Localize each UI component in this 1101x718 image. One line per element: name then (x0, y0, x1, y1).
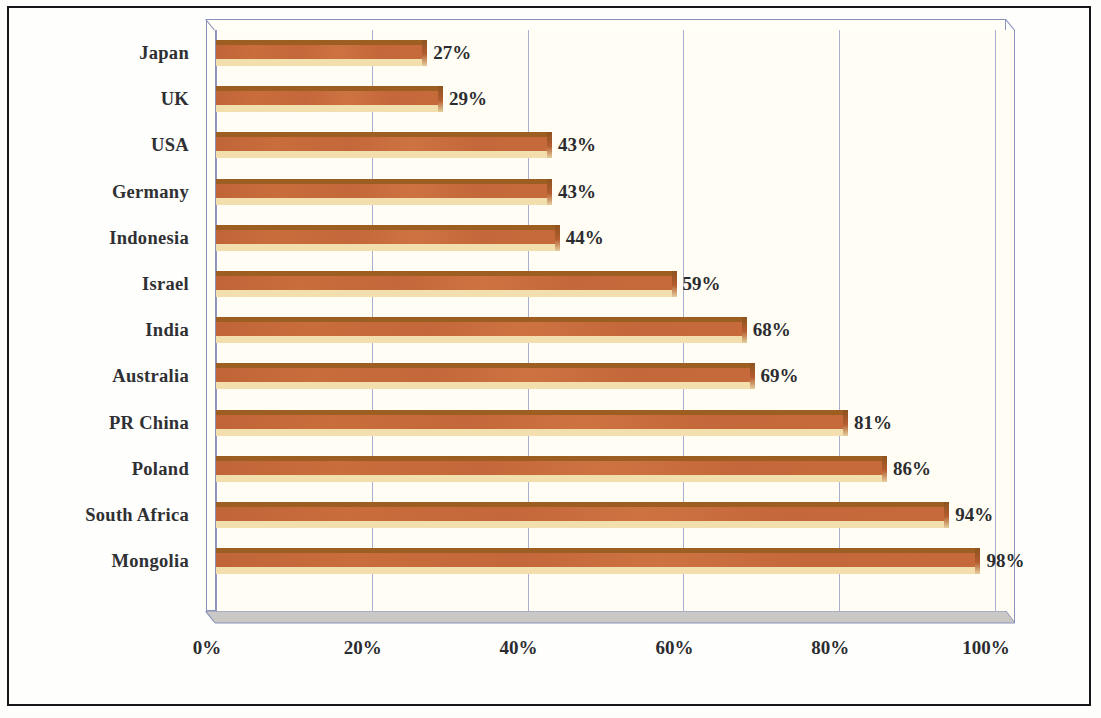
x-tick-label: 40% (474, 637, 564, 659)
category-label: South Africa (9, 492, 205, 538)
category-label: Israel (9, 261, 205, 307)
x-tick-label: 0% (162, 637, 252, 659)
bar-value-label: 86% (893, 456, 931, 482)
bar-end-cap (422, 40, 427, 66)
category-label: Germany (9, 169, 205, 215)
bar-bottom-face (216, 290, 676, 297)
bar-front-face (216, 368, 754, 382)
bar-front-face (216, 184, 551, 198)
bar-row: Japan27% (9, 30, 1093, 76)
bar-bottom-face (216, 198, 551, 205)
bar-value-label: 59% (683, 271, 721, 297)
bar-value-label: 29% (449, 86, 487, 112)
bar[interactable] (216, 132, 551, 158)
bar-row: South Africa94% (9, 492, 1093, 538)
bar-front-face (216, 553, 979, 567)
bar-row: Poland86% (9, 446, 1093, 492)
bar-row: Australia69% (9, 353, 1093, 399)
bar-front-face (216, 415, 847, 429)
bar-end-cap (975, 548, 980, 574)
x-tick-label: 60% (629, 637, 719, 659)
bar-front-face (216, 276, 676, 290)
x-tick-label: 80% (785, 637, 875, 659)
bar-row: UK29% (9, 76, 1093, 122)
x-tick-label: 100% (941, 637, 1031, 659)
bar-end-cap (843, 410, 848, 436)
bar[interactable] (216, 317, 746, 343)
bar[interactable] (216, 502, 948, 528)
bar-bottom-face (216, 567, 979, 574)
bar-end-cap (438, 86, 443, 112)
bar-chart: Japan27%UK29%USA43%Germany43%Indonesia44… (9, 8, 1093, 708)
bar[interactable] (216, 548, 979, 574)
bar-bottom-face (216, 59, 426, 66)
bar[interactable] (216, 363, 754, 389)
bar-row: Indonesia44% (9, 215, 1093, 261)
bar-row: PR China81% (9, 400, 1093, 446)
bar-end-cap (547, 179, 552, 205)
bar-value-label: 43% (558, 132, 596, 158)
bar-value-label: 27% (433, 40, 471, 66)
bar-value-label: 69% (761, 363, 799, 389)
bar-row: Israel59% (9, 261, 1093, 307)
bar[interactable] (216, 225, 559, 251)
bar-front-face (216, 45, 426, 59)
bar[interactable] (216, 456, 886, 482)
category-label: Indonesia (9, 215, 205, 261)
bar-end-cap (750, 363, 755, 389)
category-label: Poland (9, 446, 205, 492)
chart-bars-group: Japan27%UK29%USA43%Germany43%Indonesia44… (9, 8, 1093, 708)
bar-bottom-face (216, 429, 847, 436)
bar-front-face (216, 322, 746, 336)
bar-value-label: 68% (753, 317, 791, 343)
bar[interactable] (216, 86, 442, 112)
bar-bottom-face (216, 521, 948, 528)
bar-front-face (216, 137, 551, 151)
bar-bottom-face (216, 382, 754, 389)
category-label: Mongolia (9, 538, 205, 584)
bar[interactable] (216, 40, 426, 66)
bar-front-face (216, 230, 559, 244)
category-label: USA (9, 122, 205, 168)
bar[interactable] (216, 271, 676, 297)
bar-bottom-face (216, 244, 559, 251)
bar-end-cap (547, 132, 552, 158)
bar-front-face (216, 507, 948, 521)
bar-row: India68% (9, 307, 1093, 353)
category-label: PR China (9, 400, 205, 446)
category-label: UK (9, 76, 205, 122)
bar-end-cap (882, 456, 887, 482)
x-tick-label: 20% (318, 637, 408, 659)
bar[interactable] (216, 179, 551, 205)
bar-front-face (216, 91, 442, 105)
category-label: Japan (9, 30, 205, 76)
bar-row: Germany43% (9, 169, 1093, 215)
category-label: India (9, 307, 205, 353)
bar-end-cap (742, 317, 747, 343)
bar-bottom-face (216, 475, 886, 482)
bar-row: USA43% (9, 122, 1093, 168)
chart-frame-border: Japan27%UK29%USA43%Germany43%Indonesia44… (7, 6, 1091, 706)
bar-front-face (216, 461, 886, 475)
bar-end-cap (672, 271, 677, 297)
scanned-page: Japan27%UK29%USA43%Germany43%Indonesia44… (0, 0, 1101, 718)
bar-value-label: 43% (558, 179, 596, 205)
bar-value-label: 94% (955, 502, 993, 528)
bar-bottom-face (216, 336, 746, 343)
bar-value-label: 98% (986, 548, 1024, 574)
bar-row: Mongolia98% (9, 538, 1093, 584)
bar-value-label: 44% (566, 225, 604, 251)
bar-end-cap (555, 225, 560, 251)
bar-bottom-face (216, 151, 551, 158)
bar-bottom-face (216, 105, 442, 112)
bar-value-label: 81% (854, 410, 892, 436)
bar-end-cap (944, 502, 949, 528)
category-label: Australia (9, 353, 205, 399)
bar[interactable] (216, 410, 847, 436)
